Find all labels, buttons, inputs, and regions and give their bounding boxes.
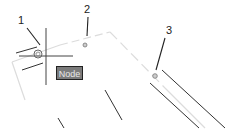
callout-label-3: 3	[166, 25, 172, 36]
node-point-3-icon	[153, 74, 158, 79]
node-markers	[34, 43, 157, 78]
cad-viewport[interactable]: 1 2 3 Node	[0, 0, 235, 138]
snap-tooltip: Node	[56, 66, 83, 80]
callout-leaders	[27, 17, 165, 70]
faint-outline	[12, 32, 205, 128]
drawing-geometry	[0, 0, 235, 138]
node-point-2-icon	[83, 43, 87, 47]
callout-label-1: 1	[18, 15, 24, 26]
callout-label-2: 2	[84, 4, 90, 15]
